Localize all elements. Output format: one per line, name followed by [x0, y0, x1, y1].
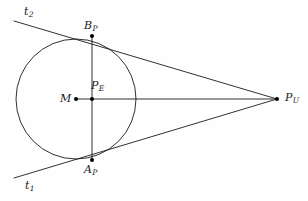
- label-point-P-U: PU: [285, 92, 299, 105]
- label-point-B-P: BP: [84, 20, 97, 33]
- point-M: [74, 97, 78, 101]
- label-point-M: M: [60, 93, 72, 106]
- point-B-P: [90, 34, 94, 38]
- label-point-P-E: PE: [91, 80, 104, 93]
- label-point-A-P: AP: [84, 164, 97, 177]
- geometry-canvas: [0, 0, 308, 201]
- point-A-P: [90, 158, 94, 162]
- label-tangent-t2: t2: [24, 6, 34, 19]
- point-P-U: [275, 97, 279, 101]
- tangent-line-t1: [14, 99, 277, 178]
- geometry-figure: t2 t1 BP AP M PE PU: [0, 0, 308, 201]
- label-tangent-t1: t1: [25, 180, 35, 193]
- tangent-line-t2: [14, 21, 277, 99]
- point-P-E: [90, 97, 94, 101]
